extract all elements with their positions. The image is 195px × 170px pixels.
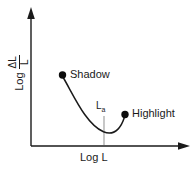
threshold-contrast-curve bbox=[64, 78, 125, 133]
y-axis-label-fraction: ΔLL bbox=[8, 55, 30, 69]
y-axis-label-numerator: ΔL bbox=[8, 55, 20, 69]
y-axis-arrow-icon bbox=[27, 7, 35, 19]
shadow-data-point bbox=[59, 71, 66, 78]
shadow-annotation-label: Shadow bbox=[70, 69, 110, 80]
chart-figure: LogΔLL Log L Shadow Highlight La bbox=[0, 0, 195, 170]
la-label-subscript: a bbox=[102, 106, 106, 113]
la-annotation-label: La bbox=[96, 101, 105, 113]
y-axis-label: LogΔLL bbox=[8, 42, 30, 104]
highlight-data-point bbox=[121, 111, 128, 118]
y-axis-label-prefix: Log bbox=[14, 72, 25, 90]
x-axis-label: Log L bbox=[80, 152, 108, 163]
highlight-annotation-label: Highlight bbox=[132, 108, 175, 119]
x-axis-arrow-icon bbox=[178, 142, 190, 150]
y-axis-label-denominator: L bbox=[20, 55, 31, 69]
